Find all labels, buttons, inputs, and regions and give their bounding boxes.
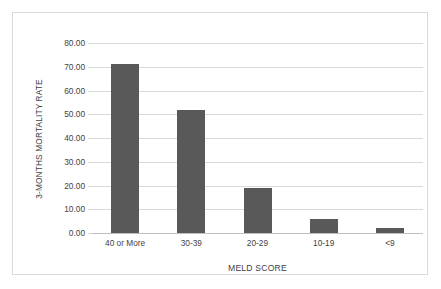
gridline: [92, 233, 423, 234]
y-tick-label: 40.00: [49, 133, 85, 143]
x-tick-label: 20-29: [224, 237, 290, 249]
y-tick-label: 10.00: [49, 204, 85, 214]
y-tick-mark: [88, 233, 92, 234]
bar-series: [92, 43, 423, 233]
x-tick-label: 30-39: [158, 237, 224, 249]
bar[interactable]: [111, 64, 139, 233]
bar[interactable]: [310, 219, 338, 233]
y-tick-label: 0.00: [49, 228, 85, 238]
y-axis-title: 3-MONTHS MORTALITY RATE: [31, 43, 47, 235]
bar[interactable]: [244, 188, 272, 233]
x-axis-title: MELD SCORE: [92, 263, 423, 273]
plot-area: [92, 43, 423, 233]
x-axis-tick-labels: 40 or More30-3920-2910-19<9: [92, 237, 423, 251]
y-tick-label: 70.00: [49, 62, 85, 72]
chart-frame: 3-MONTHS MORTALITY RATE 80.0070.0060.005…: [12, 12, 428, 275]
y-axis-title-label: 3-MONTHS MORTALITY RATE: [34, 79, 44, 198]
y-axis-tick-labels: 80.0070.0060.0050.0040.0030.0020.0010.00…: [49, 37, 85, 239]
bar[interactable]: [177, 110, 205, 234]
bar[interactable]: [376, 228, 404, 233]
y-tick-label: 80.00: [49, 38, 85, 48]
x-tick-label: 40 or More: [92, 237, 158, 249]
y-tick-label: 20.00: [49, 181, 85, 191]
x-tick-label: 10-19: [291, 237, 357, 249]
y-tick-label: 60.00: [49, 86, 85, 96]
y-tick-label: 50.00: [49, 109, 85, 119]
y-tick-label: 30.00: [49, 157, 85, 167]
x-tick-label: <9: [357, 237, 423, 249]
chart-figure: 3-MONTHS MORTALITY RATE 80.0070.0060.005…: [0, 0, 441, 289]
